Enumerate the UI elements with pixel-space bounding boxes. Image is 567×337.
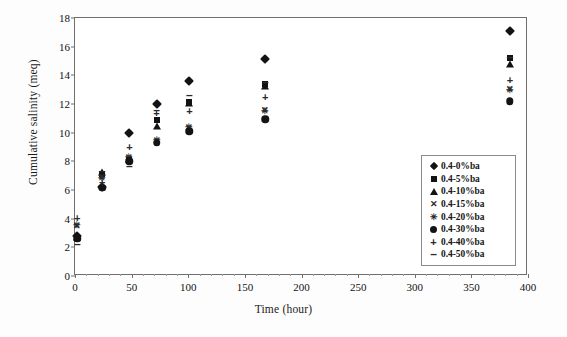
chart-figure: Cumulative salinity (meq) Time (hour) 02… [0, 0, 567, 337]
x-tick-minor [98, 274, 99, 276]
x-tick-minor [109, 274, 110, 276]
y-tick-label: 12 [59, 98, 70, 110]
x-tick-minor [335, 274, 336, 276]
data-point [152, 99, 162, 109]
x-tick-mark [75, 274, 76, 278]
data-point [98, 169, 106, 176]
x-tick-mark [188, 274, 189, 278]
legend-item-label: 0.4-50%ba [440, 249, 485, 259]
data-point: ✳ [185, 122, 193, 131]
triangle-marker-icon [427, 185, 440, 197]
y-tick-label: 18 [59, 12, 70, 24]
x-tick-label: 100 [180, 281, 197, 293]
y-tick-mark [71, 132, 75, 133]
x-tick-mark [528, 274, 529, 278]
data-point: ✕ [506, 84, 514, 93]
data-point: ✳ [125, 153, 133, 162]
data-point [262, 115, 270, 123]
data-point [262, 81, 268, 87]
x-tick-minor [517, 274, 518, 276]
legend-item: ✳0.4-20%ba [427, 210, 510, 223]
data-point [184, 76, 194, 86]
y-tick-label: 4 [65, 213, 71, 225]
data-point [153, 139, 161, 147]
x-tick-minor [403, 274, 404, 276]
legend-item-label: 0.4-15%ba [440, 199, 485, 209]
dash-marker-icon: – [427, 248, 440, 260]
data-point: – [126, 160, 133, 172]
data-point [506, 60, 514, 67]
data-point [126, 157, 132, 163]
x-tick-minor [313, 274, 314, 276]
y-axis-title: Cumulative salinity (meq) [27, 27, 39, 217]
legend-item-label: 0.4-5%ba [440, 174, 480, 184]
data-point: ✳ [73, 221, 81, 230]
y-tick-mark [71, 46, 75, 47]
y-tick-mark [71, 18, 75, 19]
x-tick-minor [234, 274, 235, 276]
x-tick-minor [166, 274, 167, 276]
data-point [505, 26, 515, 36]
plus-marker-icon: + [427, 236, 440, 248]
legend-item: 0.4-0%ba [427, 160, 510, 173]
x-axis-title: Time (hour) [0, 303, 567, 315]
data-point: + [507, 74, 513, 85]
data-point [74, 235, 82, 243]
x-tick-label: 200 [293, 281, 310, 293]
circle-marker-icon [427, 223, 440, 235]
x-tick-minor [86, 274, 87, 276]
y-tick-label: 14 [59, 69, 70, 81]
data-point [154, 117, 160, 123]
x-tick-minor [154, 274, 155, 276]
data-point [72, 231, 82, 241]
x-tick-mark [471, 274, 472, 278]
x-tick-minor [324, 274, 325, 276]
x-tick-label: 400 [520, 281, 537, 293]
legend-item-label: 0.4-30%ba [440, 224, 485, 234]
y-tick-label: 0 [65, 270, 71, 282]
chart-legend: 0.4-0%ba0.4-5%ba0.4-10%ba✕0.4-15%ba✳0.4-… [421, 155, 516, 266]
y-tick-label: 2 [65, 241, 71, 253]
data-point [74, 234, 80, 240]
x-tick-minor [460, 274, 461, 276]
x-tick-minor [483, 274, 484, 276]
data-point: – [153, 104, 160, 116]
x-tick-minor [222, 274, 223, 276]
x-tick-minor [392, 274, 393, 276]
x-tick-minor [268, 274, 269, 276]
data-point: – [507, 51, 514, 63]
data-point: ✕ [185, 123, 193, 132]
x-tick-mark [415, 274, 416, 278]
data-point: ✕ [73, 221, 81, 230]
data-point [186, 99, 192, 105]
data-point: + [186, 106, 192, 117]
x-tick-label: 300 [407, 281, 424, 293]
data-point [507, 55, 513, 61]
x-tick-minor [369, 274, 370, 276]
legend-item-label: 0.4-40%ba [440, 237, 485, 247]
x-tick-minor [120, 274, 121, 276]
data-point [126, 158, 134, 166]
y-tick-label: 8 [65, 155, 71, 167]
x-tick-minor [177, 274, 178, 276]
data-point: + [262, 91, 268, 102]
x-tick-mark [302, 274, 303, 278]
y-tick-mark [71, 161, 75, 162]
data-point: – [262, 76, 269, 88]
legend-item-label: 0.4-20%ba [440, 212, 485, 222]
x-tick-mark [132, 274, 133, 278]
data-point [261, 83, 269, 90]
x-tick-minor [279, 274, 280, 276]
x-tick-minor [426, 274, 427, 276]
data-point [125, 156, 133, 163]
data-point [124, 128, 134, 138]
data-point: ✕ [98, 173, 106, 182]
data-point: – [99, 165, 106, 177]
legend-item: +0.4-40%ba [427, 236, 510, 249]
data-point [99, 171, 105, 177]
y-tick-mark [71, 104, 75, 105]
x-tick-minor [437, 274, 438, 276]
x-tick-minor [290, 274, 291, 276]
x-tick-label: 350 [463, 281, 480, 293]
x-tick-minor [256, 274, 257, 276]
